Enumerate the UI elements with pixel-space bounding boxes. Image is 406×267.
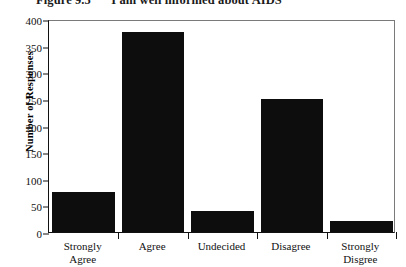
x-tick-label-line: Disagree <box>256 240 325 253</box>
y-tick-label: 50 <box>31 201 42 213</box>
plot-area: 050100150200250300350400 <box>48 20 395 233</box>
x-tick-label-line: Strongly <box>326 240 395 253</box>
y-tick-label: 250 <box>26 95 43 107</box>
y-tick-label: 300 <box>26 68 43 80</box>
x-tick-mark <box>188 232 189 239</box>
y-tick-label: 150 <box>26 148 43 160</box>
x-tick-mark <box>396 232 397 239</box>
bar <box>261 99 323 232</box>
x-tick-label: StronglyDisgree <box>326 240 395 265</box>
x-tick-label: Agree <box>117 240 186 253</box>
x-tick-label-line: Agree <box>48 253 117 266</box>
y-tick-label: 0 <box>37 228 43 240</box>
bar <box>191 211 253 232</box>
x-tick-label: Disagree <box>256 240 325 253</box>
bar <box>330 221 392 232</box>
y-tick-label: 400 <box>26 15 43 27</box>
figure-number: Figure 9.5 <box>36 0 91 7</box>
x-tick-label-line: Disgree <box>326 253 395 266</box>
x-tick-label: StronglyAgree <box>48 240 117 265</box>
y-tick-label: 100 <box>26 175 43 187</box>
figure-caption: Figure 9.5“I am well informed about AIDS… <box>36 0 288 7</box>
x-tick-label-line: Strongly <box>48 240 117 253</box>
x-tick-mark <box>118 232 119 239</box>
figure-caption-text: “I am well informed about AIDS” <box>105 0 288 7</box>
y-tick-label: 200 <box>26 122 43 134</box>
y-tick-label: 350 <box>26 42 43 54</box>
x-tick-mark <box>257 232 258 239</box>
bar <box>122 32 184 232</box>
x-tick-mark <box>327 232 328 239</box>
bar <box>52 192 114 232</box>
x-tick-label-line: Undecided <box>187 240 256 253</box>
y-tick-mark <box>43 234 49 235</box>
x-tick-label-line: Agree <box>117 240 186 253</box>
bar-series <box>49 21 394 232</box>
x-tick-label: Undecided <box>187 240 256 253</box>
